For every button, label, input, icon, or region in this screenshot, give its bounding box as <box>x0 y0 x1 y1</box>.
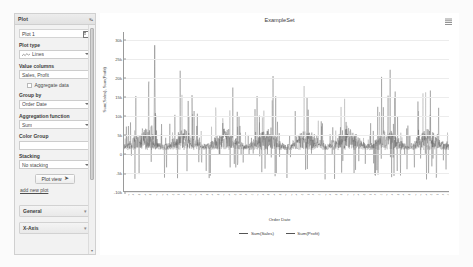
sidebar-section-x-axis[interactable]: X-Axis ▾ <box>19 222 91 234</box>
sidebar-body: Plot 1 Plot type Lines Value columns Sal… <box>15 25 95 234</box>
arrow-right-icon: ➤ <box>64 176 69 182</box>
plot-configuration-screen: Plot ▾ Plot 1 Plot type Lines Value colu… <box>0 0 473 267</box>
gridline <box>124 173 449 174</box>
series-lines <box>124 32 449 191</box>
aggregate-data-label: Aggregate data <box>35 82 69 88</box>
sidebar-title: Plot <box>18 16 89 22</box>
y-axis-tick-label: 0 <box>120 151 124 156</box>
plot-view-button-row: Plot view ➤ <box>19 174 91 184</box>
plot-name-field[interactable]: Plot 1 <box>19 29 91 38</box>
stacking-select[interactable]: No stacking <box>19 160 91 169</box>
group-by-select[interactable]: Order Date <box>19 100 91 109</box>
x-axis-title: Order Date <box>100 217 459 222</box>
aggregate-data-checkbox[interactable] <box>27 83 32 88</box>
plot-type-select[interactable]: Lines <box>19 50 91 59</box>
y-axis-tick-label: 20k <box>115 75 124 80</box>
value-columns-input[interactable]: Sales, Profit <box>19 70 91 79</box>
legend-line-swatch <box>239 233 248 234</box>
legend-line-swatch <box>286 233 295 234</box>
sidebar-section-x-axis-label: X-Axis <box>23 225 84 231</box>
gridline <box>124 192 449 193</box>
gridline <box>124 154 449 155</box>
gridline <box>124 59 449 60</box>
y-axis-tick-label: 30k <box>115 37 124 42</box>
stacking-label: Stacking <box>19 153 91 159</box>
grid-menu-icon[interactable] <box>445 18 452 25</box>
gridline <box>124 97 449 98</box>
aggregate-data-checkbox-row[interactable]: Aggregate data <box>27 82 91 88</box>
y-axis-tick-label: 5k <box>118 132 124 137</box>
y-axis-tick-label: 25k <box>115 56 124 61</box>
sidebar-scrollbar[interactable]: ▴ ▾ <box>88 25 95 254</box>
chart-legend: Sum(Sales) Sum(Profit) <box>100 231 459 236</box>
sidebar-section-general[interactable]: General ▾ <box>19 205 91 217</box>
y-axis-tick-label: 10k <box>115 113 124 118</box>
series-line <box>124 70 449 180</box>
value-columns-value: Sales, Profit <box>22 72 49 78</box>
plot-area[interactable]: 30k25k20k15k10k5k0-5k-10k <box>123 32 449 192</box>
plot-view-button-label: Plot view <box>41 176 61 182</box>
value-columns-label: Value columns <box>19 63 91 69</box>
group-by-value: Order Date <box>22 101 47 107</box>
gridline <box>124 40 449 41</box>
caret-down-icon[interactable]: ▾ <box>90 248 94 253</box>
gridline <box>124 78 449 79</box>
y-axis-tick-label: -5k <box>116 171 124 176</box>
aggregation-function-value: Sum <box>22 122 32 128</box>
sidebar-header[interactable]: Plot ▾ <box>15 14 95 25</box>
group-by-label: Group by <box>19 92 91 98</box>
line-chart-icon <box>22 53 30 57</box>
y-axis-tick-label: 15k <box>115 94 124 99</box>
plot-sidebar-panel: Plot ▾ Plot 1 Plot type Lines Value colu… <box>14 13 96 255</box>
gridline <box>124 116 449 117</box>
scrollbar-thumb[interactable] <box>90 28 94 180</box>
plot-type-value: Lines <box>32 51 44 57</box>
legend-item-sum-sales[interactable]: Sum(Sales) <box>239 231 273 236</box>
chevron-down-icon[interactable]: ▾ <box>84 209 87 214</box>
x-axis-tick-label: Dec 30 2018 <box>446 194 449 196</box>
color-group-input[interactable] <box>19 141 91 150</box>
chevron-down-icon[interactable]: ▾ <box>84 226 87 231</box>
caret-up-icon[interactable]: ▴ <box>90 17 94 22</box>
sidebar-section-general-label: General <box>23 208 84 214</box>
aggregation-function-label: Aggregation function <box>19 113 91 119</box>
y-axis-title: Sum(Sales), Sum(Profit) <box>102 67 107 112</box>
aggregation-function-select[interactable]: Sum <box>19 120 91 129</box>
chart-title: ExampleSet <box>100 17 459 23</box>
plot-name-value: Plot 1 <box>22 31 83 37</box>
legend-item-sum-profit[interactable]: Sum(Profit) <box>286 231 320 236</box>
color-group-label: Color Group <box>19 133 91 139</box>
plot-type-label: Plot type <box>19 42 91 48</box>
chart-panel: ExampleSet Sum(Sales), Sum(Profit) 30k25… <box>100 13 459 255</box>
legend-label: Sum(Sales) <box>251 231 274 236</box>
stacking-value: No stacking <box>22 162 48 168</box>
gridline <box>124 135 449 136</box>
legend-label: Sum(Profit) <box>297 231 319 236</box>
plot-view-button[interactable]: Plot view ➤ <box>35 174 74 184</box>
